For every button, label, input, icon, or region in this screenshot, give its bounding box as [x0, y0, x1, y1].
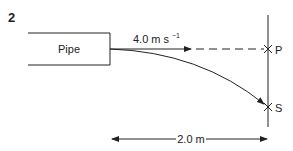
trajectory-curve	[110, 49, 264, 104]
velocity-label: 4.0 m s	[133, 33, 170, 45]
velocity-exponent: −1	[172, 32, 180, 39]
point-s-label: S	[275, 102, 282, 114]
point-s-marker: S	[264, 102, 282, 114]
pipe-label: Pipe	[58, 43, 80, 55]
distance-arrow: 2.0 m	[112, 133, 267, 145]
point-p-label: P	[275, 44, 282, 56]
question-number: 2	[8, 10, 15, 25]
pipe: Pipe	[28, 33, 110, 65]
projectile-diagram: 2 Pipe 4.0 m s −1 P S 2.0 m	[0, 0, 293, 151]
distance-label: 2.0 m	[177, 133, 205, 145]
velocity-arrow: 4.0 m s −1	[110, 32, 191, 49]
point-p-marker: P	[264, 44, 282, 56]
